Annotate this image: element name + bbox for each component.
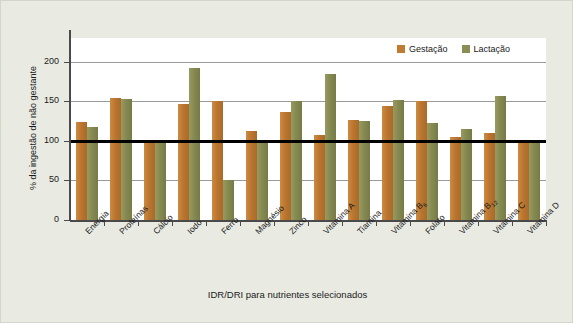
y-tick-mark-50	[64, 180, 70, 181]
y-tick-mark-100	[64, 141, 70, 142]
reference-line-100	[70, 140, 546, 143]
bar-gestação-ferro	[212, 101, 223, 220]
chart-figure: % da ingestão de não gestante 0501001502…	[0, 0, 573, 323]
x-tick-mark-3	[206, 221, 207, 226]
y-tick-label-200: 200	[44, 56, 59, 66]
bar-group-energia	[76, 38, 98, 220]
bar-group-vitamina-b12	[450, 38, 472, 220]
bar-group-proteínas	[110, 38, 132, 220]
bar-gestação-vitamina-b12	[450, 137, 461, 220]
bar-lactação-magnésio	[257, 141, 268, 220]
y-tick-label-150: 150	[44, 95, 59, 105]
legend-label: Gestação	[409, 44, 448, 54]
y-axis-title: % da ingestão de não gestante	[28, 33, 38, 223]
bar-group-cálcio	[144, 38, 166, 220]
bar-group-vitamina-b6	[382, 38, 404, 220]
legend-entry-gestação: Gestação	[397, 44, 448, 54]
bar-gestação-zinco	[280, 112, 291, 220]
bar-lactação-zinco	[291, 101, 302, 220]
bar-group-vitamina-a	[314, 38, 336, 220]
legend-entry-lactação: Lactação	[462, 44, 511, 54]
y-axis-line	[69, 30, 71, 220]
y-tick-mark-0	[64, 220, 70, 221]
bar-lactação-iodo	[189, 68, 200, 220]
bar-gestação-vitamina-b6	[382, 106, 393, 220]
bar-group-magnésio	[246, 38, 268, 220]
bar-gestação-vitamina-a	[314, 135, 325, 220]
gridline-50	[70, 180, 546, 181]
bar-gestação-proteínas	[110, 98, 121, 220]
gridline-150	[70, 101, 546, 102]
bar-gestação-iodo	[178, 104, 189, 220]
chart-legend: GestaçãoLactação	[397, 44, 510, 54]
bar-group-tiamina	[348, 38, 370, 220]
legend-swatch-icon	[397, 45, 405, 53]
bar-group-folato	[416, 38, 438, 220]
bar-gestação-energia	[76, 122, 87, 220]
plot-area	[70, 38, 546, 220]
y-tick-label-0: 0	[54, 214, 59, 224]
y-tick-label-50: 50	[49, 174, 59, 184]
y-tick-mark-200	[64, 62, 70, 63]
bar-lactação-tiamina	[359, 121, 370, 220]
bar-group-vitamina-d	[518, 38, 540, 220]
bar-group-vitamina-c	[484, 38, 506, 220]
y-tick-mark-150	[64, 101, 70, 102]
bar-gestação-magnésio	[246, 131, 257, 220]
bar-lactação-proteínas	[121, 99, 132, 220]
bar-lactação-vitamina-d	[529, 141, 540, 220]
bar-group-ferro	[212, 38, 234, 220]
bar-lactação-vitamina-b6	[393, 100, 404, 220]
bar-group-iodo	[178, 38, 200, 220]
bar-lactação-vitamina-a	[325, 74, 336, 220]
legend-swatch-icon	[462, 45, 470, 53]
bar-group-zinco	[280, 38, 302, 220]
x-axis-title: IDR/DRI para nutrientes selecionados	[1, 289, 573, 300]
y-tick-label-100: 100	[44, 135, 59, 145]
gridline-200	[70, 62, 546, 63]
bar-lactação-cálcio	[155, 141, 166, 220]
legend-label: Lactação	[474, 44, 511, 54]
